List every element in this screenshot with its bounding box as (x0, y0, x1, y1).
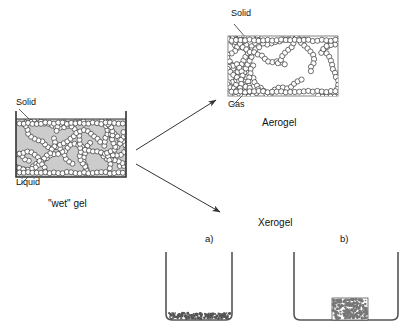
diagram-canvas: Solid Liquid "wet" gel Solid Gas Aerogel (0, 0, 418, 335)
xerogel-panel-b (288, 250, 408, 326)
arrow-to-xerogel (136, 164, 220, 212)
xerogel-panel-a (160, 250, 238, 326)
xerogel-a-residue-layer (167, 312, 231, 320)
wet-gel-caption: "wet" gel (48, 198, 87, 210)
xerogel-panel-a-letter: a) (205, 233, 213, 244)
xerogel-caption: Xerogel (258, 217, 292, 229)
arrow-to-aerogel (136, 100, 216, 150)
wet-gel-beaker (10, 105, 140, 190)
xerogel-a-container-outline (166, 252, 232, 320)
aerogel-caption: Aerogel (262, 117, 296, 129)
xerogel-panel-b-letter: b) (340, 233, 348, 244)
aerogel-box (222, 18, 348, 104)
process-arrows (128, 92, 250, 220)
